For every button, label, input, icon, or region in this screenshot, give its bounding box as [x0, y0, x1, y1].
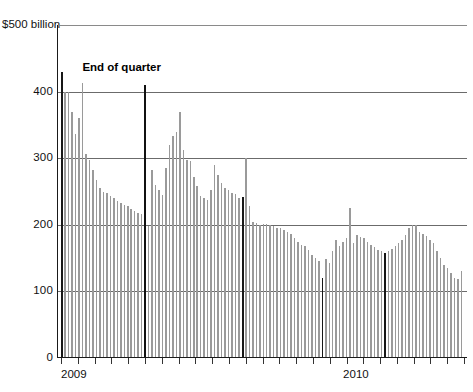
bar — [117, 201, 119, 358]
bar — [287, 232, 289, 359]
bar — [308, 250, 310, 358]
bar — [440, 258, 442, 358]
bar — [200, 196, 202, 358]
bar — [342, 242, 344, 359]
bar — [412, 225, 414, 358]
bar — [127, 206, 129, 358]
bar — [141, 214, 143, 358]
bar — [429, 240, 431, 359]
bar — [283, 230, 285, 359]
bar-quarter-end — [242, 197, 244, 358]
bar — [457, 279, 459, 358]
x-tick — [414, 358, 415, 364]
x-tick — [279, 358, 280, 364]
bar — [436, 251, 438, 358]
x-tick — [212, 358, 213, 364]
bar — [130, 209, 132, 358]
bar — [64, 92, 66, 358]
bar — [315, 258, 317, 358]
bar — [106, 193, 108, 358]
x-tick — [195, 358, 196, 364]
bar — [148, 226, 150, 358]
bar — [294, 238, 296, 358]
bar — [221, 183, 223, 358]
bar — [238, 198, 240, 358]
x-tick — [313, 358, 314, 364]
bar — [210, 190, 212, 358]
bar — [370, 245, 372, 358]
x-tick — [447, 358, 448, 364]
bar — [235, 194, 237, 359]
bar — [391, 249, 393, 358]
bar — [75, 134, 77, 358]
y-tick-label-400: 400 — [33, 85, 53, 97]
y-tick-label-200: 200 — [33, 218, 53, 230]
x-tick — [111, 358, 112, 364]
bar — [374, 247, 376, 358]
bar — [183, 150, 185, 358]
bar — [231, 193, 233, 358]
x-tick — [380, 358, 381, 364]
bar — [447, 268, 449, 358]
bar — [398, 243, 400, 358]
bar — [176, 132, 178, 358]
bar — [124, 205, 126, 358]
bar — [332, 251, 334, 358]
bar — [388, 251, 390, 358]
bar — [137, 213, 139, 358]
bar — [158, 190, 160, 358]
bar — [120, 203, 122, 358]
bar — [311, 255, 313, 358]
bar — [401, 240, 403, 359]
x-tick — [162, 358, 163, 364]
bar-quarter-end — [384, 253, 386, 358]
bar — [454, 278, 456, 358]
bar — [89, 160, 91, 358]
x-tick — [363, 358, 364, 364]
bar — [103, 192, 105, 359]
bar — [96, 180, 98, 359]
bar — [99, 188, 101, 358]
bar — [252, 222, 254, 359]
end-of-quarter-annotation: End of quarter — [82, 61, 161, 73]
x-tick — [145, 358, 146, 364]
bar — [113, 198, 115, 358]
chart-container: $500 billion 400 300 200 100 0 End of qu… — [0, 0, 473, 392]
bar — [377, 250, 379, 358]
bar — [461, 271, 463, 358]
bar — [169, 145, 171, 358]
bar — [301, 245, 303, 358]
bar — [78, 118, 80, 358]
bar — [290, 234, 292, 358]
bar — [172, 136, 174, 358]
x-tick — [296, 358, 297, 364]
bar — [249, 206, 251, 358]
bar — [443, 265, 445, 358]
bar — [256, 223, 258, 358]
gridline-500 — [58, 25, 467, 26]
x-tick — [246, 358, 247, 364]
x-tick — [128, 358, 129, 364]
bar — [335, 240, 337, 359]
bar — [151, 170, 153, 359]
bar-quarter-end — [61, 72, 63, 358]
bar — [329, 263, 331, 358]
bar — [190, 161, 192, 358]
bar — [207, 200, 209, 359]
x-tick — [179, 358, 180, 364]
bar — [360, 237, 362, 358]
bar — [263, 224, 265, 359]
y-axis-unit-label: $500 billion — [2, 18, 60, 30]
x-tick — [347, 358, 348, 364]
y-axis-line — [57, 25, 58, 358]
bar — [381, 251, 383, 358]
bar — [186, 160, 188, 358]
bar — [217, 175, 219, 358]
bar — [273, 226, 275, 358]
bar — [179, 112, 181, 358]
bar — [280, 228, 282, 358]
x-tick — [430, 358, 431, 364]
bar — [224, 188, 226, 358]
bar — [269, 225, 271, 358]
bar — [259, 225, 261, 358]
